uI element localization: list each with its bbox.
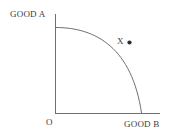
point-x-label: X bbox=[117, 36, 124, 46]
origin-label: O bbox=[46, 117, 53, 127]
ppf-curve bbox=[56, 28, 142, 114]
point-x-marker bbox=[127, 40, 131, 44]
ppf-figure: GOOD A GOOD B O X bbox=[0, 0, 185, 140]
x-axis-label: GOOD B bbox=[124, 119, 159, 129]
y-axis-label: GOOD A bbox=[10, 9, 45, 19]
